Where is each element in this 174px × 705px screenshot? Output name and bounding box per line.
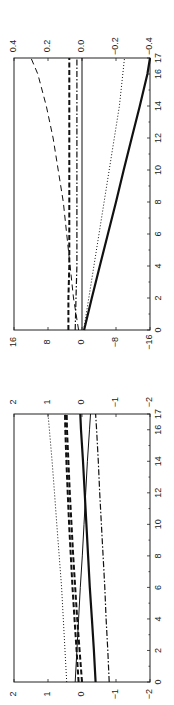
y-right-tick-label: −0.2 xyxy=(110,37,120,55)
y-right-tick-label: −0.4 xyxy=(144,37,154,55)
y-right-tick-label: 1 xyxy=(42,399,52,404)
y-right-tick-label: 0 xyxy=(76,399,86,404)
series-line xyxy=(67,414,82,682)
y-left-tick-label: 8 xyxy=(42,339,52,344)
x-tick-label: 6 xyxy=(153,585,163,590)
top-chart: 0246810121416171680−8−160.40.20.0−0.2−0.… xyxy=(8,37,163,350)
y-left-tick-label: −16 xyxy=(144,334,154,349)
y-right-tick-label: 0.2 xyxy=(42,40,52,53)
y-left-tick-label: −2 xyxy=(144,689,154,699)
y-right-tick-label: 0.4 xyxy=(8,40,18,53)
x-tick-label: 10 xyxy=(153,165,163,175)
y-right-tick-label: 2 xyxy=(8,399,18,404)
y-left-tick-label: 0 xyxy=(76,339,86,344)
series-line xyxy=(96,414,110,682)
x-tick-label: 12 xyxy=(153,133,163,143)
y-left-tick-label: 1 xyxy=(42,691,52,696)
x-tick-label: 2 xyxy=(153,648,163,653)
y-right-tick-label: 0.0 xyxy=(76,40,86,53)
x-tick-label: 17 xyxy=(153,409,163,419)
x-tick-label: 0 xyxy=(153,679,163,684)
x-tick-label: 8 xyxy=(153,199,163,204)
figure-canvas: 0246810121416171680−8−160.40.20.0−0.2−0.… xyxy=(0,0,174,705)
series-line xyxy=(75,58,77,330)
series-line xyxy=(31,58,79,330)
y-left-tick-label: 2 xyxy=(8,691,18,696)
series-line xyxy=(68,58,69,330)
series-line xyxy=(48,414,67,682)
x-tick-label: 16 xyxy=(153,69,163,79)
x-tick-label: 14 xyxy=(153,456,163,466)
y-left-tick-label: 16 xyxy=(8,337,18,347)
x-tick-label: 8 xyxy=(153,553,163,558)
y-left-tick-label: −8 xyxy=(110,337,120,347)
y-left-tick-label: 0 xyxy=(76,691,86,696)
x-tick-label: 17 xyxy=(153,53,163,63)
x-tick-label: 12 xyxy=(153,488,163,498)
x-tick-label: 2 xyxy=(153,295,163,300)
x-tick-label: 16 xyxy=(153,425,163,435)
x-tick-label: 4 xyxy=(153,616,163,621)
x-tick-label: 6 xyxy=(153,231,163,236)
series-line xyxy=(65,414,79,682)
y-right-tick-label: −2 xyxy=(144,397,154,407)
y-right-tick-label: −1 xyxy=(110,397,120,407)
y-left-tick-label: −1 xyxy=(110,689,120,699)
x-tick-label: 4 xyxy=(153,263,163,268)
x-tick-label: 10 xyxy=(153,519,163,529)
bottom-chart: 024681012141617210−1−2210−1−2 xyxy=(8,397,163,699)
x-tick-label: 0 xyxy=(153,327,163,332)
x-tick-label: 14 xyxy=(153,101,163,111)
series-line xyxy=(84,58,150,330)
